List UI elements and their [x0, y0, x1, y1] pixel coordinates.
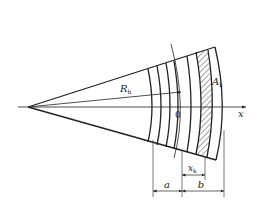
offset-label: xk — [188, 163, 197, 174]
sector-diagram: Rh 0 x Ak xk a b — [0, 0, 262, 210]
area-label: Ak — [211, 76, 223, 88]
origin-label: 0 — [175, 110, 181, 120]
dimension-a-label: a — [164, 179, 170, 190]
axis-label: x — [238, 108, 244, 119]
radius-label: Rh — [119, 83, 132, 95]
dimension-b-label: b — [198, 179, 204, 190]
